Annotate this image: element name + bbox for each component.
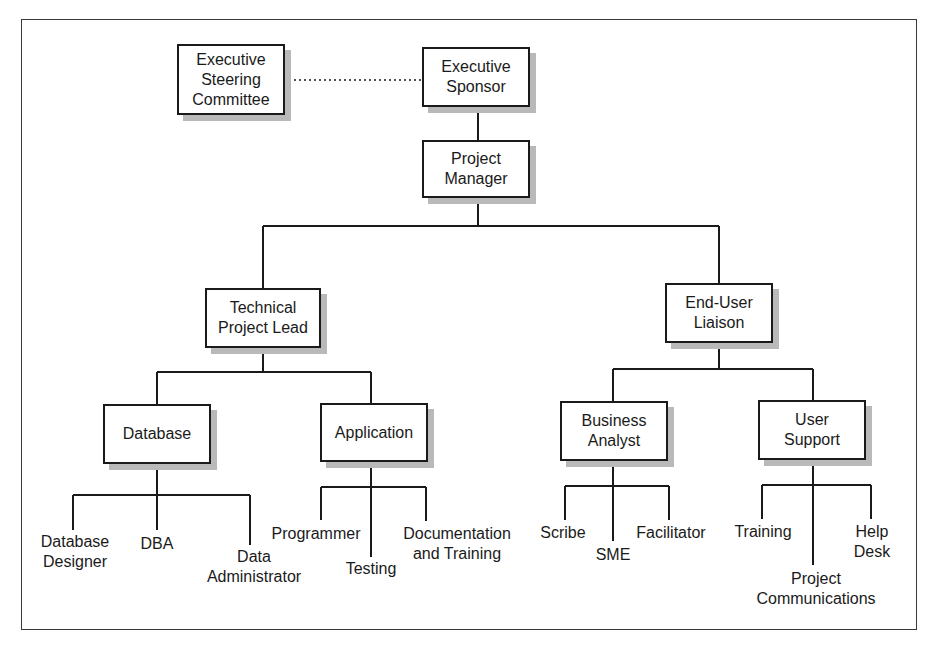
leaf-database-designer: Database Designer (40, 532, 110, 572)
node-database: Database (103, 404, 211, 464)
leaf-scribe: Scribe (533, 523, 593, 543)
leaf-dba: DBA (137, 534, 177, 554)
node-executive-sponsor: Executive Sponsor (422, 47, 530, 107)
node-technical-project-lead: Technical Project Lead (205, 288, 321, 348)
node-user-support: User Support (758, 400, 866, 460)
leaf-testing: Testing (340, 559, 402, 579)
leaf-programmer: Programmer (266, 524, 366, 544)
node-end-user-liaison: End-User Liaison (665, 283, 773, 343)
leaf-sme: SME (591, 545, 635, 565)
node-business-analyst: Business Analyst (560, 401, 668, 461)
leaf-project-communications: Project Communications (752, 569, 880, 609)
leaf-data-administrator: Data Administrator (202, 547, 306, 587)
leaf-training: Training (728, 522, 798, 542)
leaf-documentation-and-training: Documentation and Training (394, 524, 520, 564)
node-application: Application (320, 403, 428, 462)
node-executive-steering-committee: Executive Steering Committee (177, 44, 285, 115)
leaf-facilitator: Facilitator (630, 523, 712, 543)
node-project-manager: Project Manager (422, 140, 530, 198)
leaf-help-desk: Help Desk (852, 522, 892, 562)
